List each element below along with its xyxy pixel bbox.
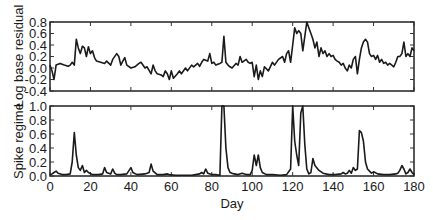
x-tick-label: 100 xyxy=(241,179,263,194)
x-tick-label: 120 xyxy=(282,179,304,194)
top-panel: 0.80.60.40.20.0-0.2-0.4 Log base residua… xyxy=(11,5,414,108)
x-tick-label: 160 xyxy=(363,179,385,194)
x-tick-label: 60 xyxy=(164,179,178,194)
x-tick-label: 140 xyxy=(322,179,344,194)
x-tick-label: 80 xyxy=(205,179,219,194)
spike-regime-line xyxy=(50,106,414,175)
y-tick-label: 0.8 xyxy=(29,113,47,128)
log-base-residual-line xyxy=(50,22,414,80)
bottom-panel: 020406080100120140160180 1.00.80.60.40.2… xyxy=(11,99,425,212)
x-tick-label: 40 xyxy=(124,179,138,194)
y-tick-label: 0.4 xyxy=(29,141,47,156)
y-tick-label: 0.0 xyxy=(29,169,47,184)
x-axis-label: Day xyxy=(220,196,244,211)
bottom-y-axis-label: Spike regime xyxy=(11,103,26,179)
bottom-x-ticks: 020406080100120140160180 xyxy=(46,106,424,194)
y-tick-label: 0.2 xyxy=(29,155,47,170)
x-tick-label: 180 xyxy=(403,179,425,194)
y-tick-label: 1.0 xyxy=(29,99,47,114)
y-tick-label: 0.6 xyxy=(29,127,47,142)
x-tick-label: 20 xyxy=(83,179,97,194)
figure: 0.80.60.40.20.0-0.2-0.4 Log base residua… xyxy=(0,0,433,220)
x-tick-label: 0 xyxy=(46,179,53,194)
top-y-axis-label: Log base residual xyxy=(11,5,26,108)
y-tick-label: -0.4 xyxy=(25,84,47,99)
